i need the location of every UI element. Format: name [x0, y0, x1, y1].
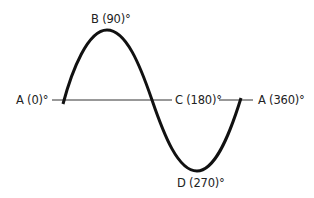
label-d-trough: D (270)°	[177, 176, 225, 190]
label-c-mid: C (180)°	[175, 93, 222, 107]
label-a-start: A (0)°	[16, 93, 48, 107]
label-a-end: A (360)°	[258, 93, 305, 107]
label-b-peak: B (90)°	[91, 12, 131, 26]
